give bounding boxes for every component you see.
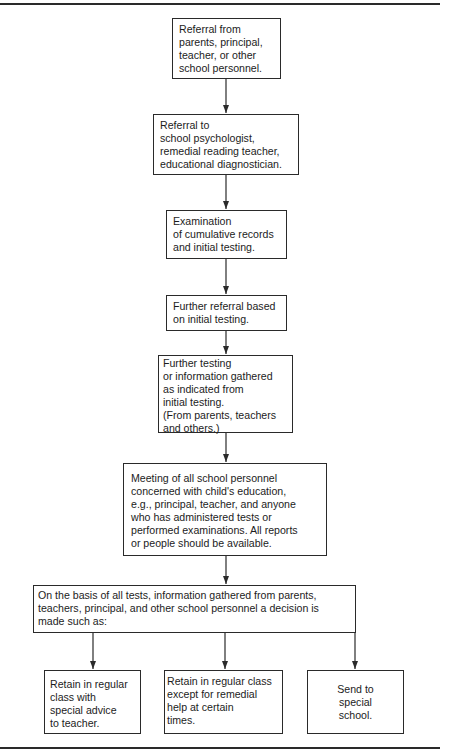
node-text: made such as: bbox=[38, 615, 351, 628]
node-text: initial testing. bbox=[163, 396, 288, 409]
node-text: and initial testing. bbox=[173, 241, 280, 254]
node-text: school psychologist, bbox=[160, 132, 292, 145]
node-text: who has administered tests or bbox=[131, 511, 319, 524]
node-text: as indicated from bbox=[163, 383, 288, 396]
node-text: Retain in regular bbox=[50, 678, 135, 691]
node-further-referral: Further referral based on initial testin… bbox=[166, 295, 287, 331]
node-text: Further referral based bbox=[173, 300, 280, 313]
node-text: special advice bbox=[50, 704, 135, 717]
node-text: remedial reading teacher, bbox=[160, 145, 292, 158]
node-text: On the basis of all tests, information g… bbox=[38, 589, 351, 602]
node-further-testing: Further testing or information gathered … bbox=[158, 355, 293, 433]
node-text: performed examinations. All reports bbox=[131, 524, 319, 537]
node-text: Meeting of all school personnel bbox=[131, 472, 319, 485]
node-text: e.g., principal, teacher, and anyone bbox=[131, 498, 319, 511]
node-text: times. bbox=[167, 714, 280, 727]
node-text: school. bbox=[314, 709, 397, 722]
node-text: educational diagnostician. bbox=[160, 158, 292, 171]
node-text: parents, principal, bbox=[179, 36, 274, 49]
node-text: class with bbox=[50, 691, 135, 704]
node-referral-from: Referral from parents, principal, teache… bbox=[172, 18, 281, 79]
node-text: (From parents, teachers bbox=[163, 409, 288, 422]
node-text: concerned with child's education, bbox=[131, 485, 319, 498]
node-text: teachers, principal, and other school pe… bbox=[38, 602, 351, 615]
node-retain-advice: Retain in regular class with special adv… bbox=[44, 670, 141, 734]
node-referral-to: Referral to school psychologist, remedia… bbox=[153, 114, 299, 175]
node-meeting: Meeting of all school personnel concerne… bbox=[123, 463, 327, 556]
node-examination: Examination of cumulative records and in… bbox=[166, 210, 287, 259]
node-text: help at certain bbox=[167, 701, 280, 714]
node-text: teacher, or other bbox=[179, 49, 274, 62]
node-text: or information gathered bbox=[163, 370, 288, 383]
node-text: Referral to bbox=[160, 119, 292, 132]
node-text: Retain in regular class bbox=[167, 675, 280, 688]
node-text: Further testing bbox=[163, 357, 288, 370]
node-text: Send to bbox=[314, 683, 397, 696]
node-text: Referral from bbox=[179, 23, 274, 36]
node-text: school personnel. bbox=[179, 62, 274, 75]
node-text: special bbox=[314, 696, 397, 709]
node-text: of cumulative records bbox=[173, 228, 280, 241]
node-text: or people should be available. bbox=[131, 537, 319, 550]
node-text: to teacher. bbox=[50, 717, 135, 730]
node-decision: On the basis of all tests, information g… bbox=[33, 585, 356, 633]
node-text: on initial testing. bbox=[173, 313, 280, 326]
node-special-school: Send to special school. bbox=[307, 670, 404, 734]
node-text: except for remedial bbox=[167, 688, 280, 701]
node-text: Examination bbox=[173, 215, 280, 228]
node-retain-remedial: Retain in regular class except for remed… bbox=[164, 670, 283, 734]
node-text: and others.) bbox=[163, 422, 288, 435]
